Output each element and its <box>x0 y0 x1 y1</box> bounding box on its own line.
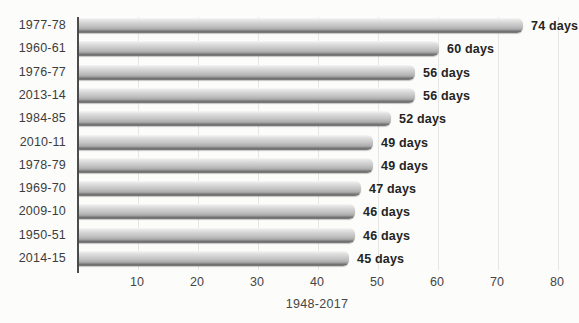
value-label: 56 days <box>423 88 470 103</box>
bar <box>79 41 439 56</box>
bar <box>79 181 361 196</box>
plot-area: 74 days60 days56 days56 days52 days49 da… <box>77 17 559 273</box>
bar <box>79 135 373 150</box>
value-label: 60 days <box>447 41 494 56</box>
x-tick-label: 10 <box>119 275 155 289</box>
category-label: 2010-11 <box>0 135 66 150</box>
value-label: 47 days <box>369 181 416 196</box>
value-label: 49 days <box>381 135 428 150</box>
bar-chart: 74 days60 days56 days56 days52 days49 da… <box>0 0 579 323</box>
x-tick-label: 60 <box>419 275 455 289</box>
value-label: 52 days <box>399 111 446 126</box>
category-label: 2013-14 <box>0 88 66 103</box>
category-label: 1960-61 <box>0 41 66 56</box>
value-label: 49 days <box>381 158 428 173</box>
category-label: 1977-78 <box>0 18 66 33</box>
bar <box>79 65 415 80</box>
bar <box>79 251 349 266</box>
bar <box>79 228 355 243</box>
x-tick-label: 40 <box>299 275 335 289</box>
bar <box>79 18 523 33</box>
x-tick-label: 30 <box>239 275 275 289</box>
category-label: 2009-10 <box>0 204 66 219</box>
gridline <box>438 17 439 270</box>
x-tick-label: 50 <box>359 275 395 289</box>
value-label: 56 days <box>423 65 470 80</box>
x-axis-label: 1948-2017 <box>77 297 557 311</box>
category-label: 1984-85 <box>0 111 66 126</box>
value-label: 74 days <box>531 18 578 33</box>
x-tick-label: 80 <box>539 275 575 289</box>
bar <box>79 158 373 173</box>
value-label: 46 days <box>363 204 410 219</box>
x-tick-label: 70 <box>479 275 515 289</box>
value-label: 46 days <box>363 228 410 243</box>
x-tick-label: 20 <box>179 275 215 289</box>
gridline <box>498 17 499 270</box>
value-label: 45 days <box>357 251 404 266</box>
gridline <box>558 17 559 270</box>
bar <box>79 111 391 126</box>
category-label: 1950-51 <box>0 228 66 243</box>
category-label: 1978-79 <box>0 158 66 173</box>
bar <box>79 88 415 103</box>
category-label: 1969-70 <box>0 181 66 196</box>
category-label: 2014-15 <box>0 251 66 266</box>
category-label: 1976-77 <box>0 65 66 80</box>
bar <box>79 204 355 219</box>
